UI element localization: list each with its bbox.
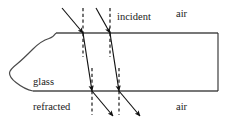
- diagram-canvas: incident air glass refracted air: [0, 0, 234, 125]
- refracted-ray-2: [119, 91, 140, 116]
- refraction-diagram: incident air glass refracted air: [0, 0, 234, 125]
- label-incident: incident: [117, 11, 151, 22]
- incident-rays-group: [62, 8, 110, 33]
- label-air-top: air: [176, 8, 188, 19]
- label-glass: glass: [33, 76, 54, 87]
- internal-ray-2: [110, 33, 119, 91]
- incident-ray-2: [96, 8, 110, 33]
- label-air-bottom: air: [176, 101, 188, 112]
- normal-lines-group: [83, 8, 119, 115]
- label-refracted: refracted: [33, 101, 71, 112]
- refracted-ray-1: [92, 91, 113, 116]
- internal-rays-group: [83, 33, 119, 91]
- internal-ray-1: [83, 33, 92, 91]
- incident-ray-1: [62, 8, 83, 33]
- refracted-rays-group: [92, 91, 140, 116]
